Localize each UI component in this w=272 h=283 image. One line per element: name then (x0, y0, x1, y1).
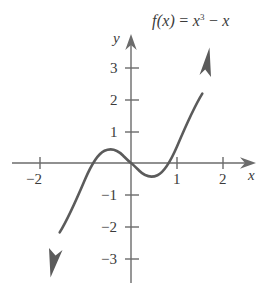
equation-equals: = (179, 12, 188, 29)
y-tick-label-minus-2: −2 (101, 220, 117, 235)
cubic-function-graph: f(x) = x3 − x y x 3 2 1 −1 −2 −3 −2 1 2 (0, 0, 272, 283)
graph-canvas (0, 0, 272, 283)
equation-base: x (193, 12, 200, 29)
y-tick-label-minus-1: −1 (101, 188, 117, 203)
y-tick-label-2: 2 (110, 93, 118, 108)
equation-last-term: x (222, 12, 229, 29)
y-axis-label: y (113, 31, 120, 46)
y-tick-label-minus-3: −3 (101, 252, 117, 267)
function-equation-label: f(x) = x3 − x (152, 13, 230, 29)
x-axis-label: x (248, 168, 255, 183)
equation-minus: − (209, 12, 218, 29)
x-tick-label-2: 2 (219, 172, 227, 187)
x-tick-label-1: 1 (173, 172, 181, 187)
y-tick-label-1: 1 (110, 125, 118, 140)
equation-exponent: 3 (200, 12, 205, 22)
x-tick-label-minus-2: −2 (26, 172, 42, 187)
y-tick-label-3: 3 (110, 61, 118, 76)
equation-arg: (x) (157, 12, 175, 29)
